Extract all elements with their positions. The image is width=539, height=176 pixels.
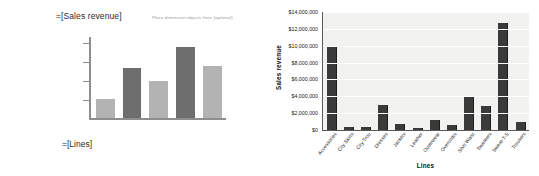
y-tick-label: $10,000,000: [289, 43, 318, 49]
report-designer-preview-pane: =[Sales revenue] Place dimension objects…: [0, 0, 262, 176]
x-tick-label: Accessories: [316, 131, 337, 156]
value-axis-placeholder[interactable]: =[Sales revenue]: [56, 11, 122, 21]
x-tick-label: Trousers: [510, 131, 527, 150]
y-tick-label: $8,000,000: [291, 60, 318, 66]
dimension-objects-dropzone[interactable]: Place dimension objects here (optional): [152, 15, 233, 20]
preview-bar: [123, 68, 142, 118]
y-tick-label: $6,000,000: [291, 76, 318, 82]
gridline: [323, 113, 529, 114]
bar[interactable]: [430, 120, 440, 130]
gridline: [323, 79, 529, 80]
preview-bar: [96, 99, 115, 118]
plot-area: [322, 12, 529, 130]
y-tick-label: $2,000,000: [291, 110, 318, 116]
x-tick-label: Sweat-T-S: [491, 131, 510, 153]
gridline: [323, 96, 529, 97]
bar[interactable]: [378, 105, 388, 130]
sales-revenue-bar-chart: Sales revenue $14,000,000$12,000,000$10,…: [262, 0, 539, 176]
gridline: [323, 12, 529, 13]
preview-y-tick: [83, 43, 89, 44]
preview-y-tick: [83, 100, 89, 101]
y-axis-tick-labels: $14,000,000$12,000,000$10,000,000$8,000,…: [276, 12, 320, 130]
preview-bars: [92, 37, 226, 118]
preview-y-tick: [83, 81, 89, 82]
x-tick-label: Shirt Waist: [456, 131, 475, 154]
preview-y-axis-line: [89, 37, 91, 119]
x-axis-tick-labels: AccessoriesCity SkirtsCity TrouDressesJa…: [322, 131, 529, 165]
bar[interactable]: [516, 122, 526, 130]
preview-bar: [149, 81, 168, 118]
gridline: [323, 63, 529, 64]
x-tick-label: Jackets: [391, 131, 406, 148]
preview-bar: [176, 47, 195, 118]
y-tick-label: $12,000,000: [289, 26, 318, 32]
category-axis-placeholder[interactable]: =[Lines]: [62, 139, 92, 149]
gridline: [323, 29, 529, 30]
gridline: [323, 46, 529, 47]
x-axis-title: Lines: [322, 162, 529, 169]
x-tick-label: Dresses: [373, 131, 389, 149]
x-tick-label: Leather: [408, 131, 423, 148]
y-tick-label: $0: [312, 127, 318, 133]
x-tick-label: City Skirts: [336, 131, 355, 152]
bar[interactable]: [327, 47, 337, 130]
x-tick-label: Outerwear: [422, 131, 441, 153]
y-tick-label: $4,000,000: [291, 93, 318, 99]
preview-y-tick: [83, 62, 89, 63]
bar[interactable]: [481, 106, 491, 130]
preview-bar: [203, 66, 222, 118]
preview-x-axis-line: [89, 118, 226, 120]
y-tick-label: $14,000,000: [289, 9, 318, 15]
x-tick-label: City Trou: [355, 131, 372, 150]
